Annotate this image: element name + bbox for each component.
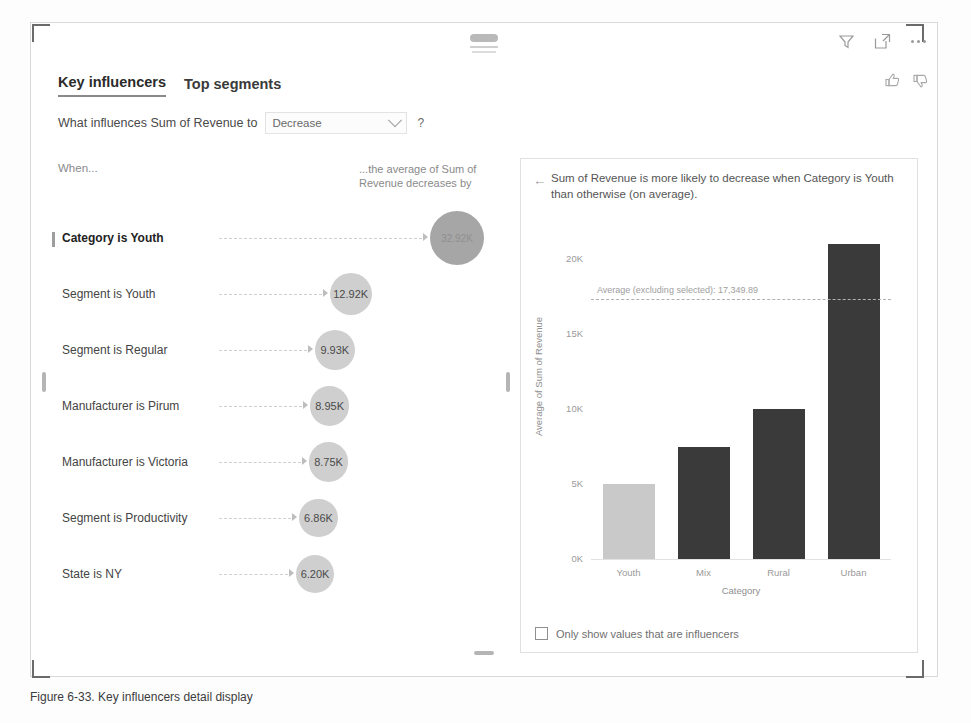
crop-mark-top-left <box>32 24 50 42</box>
filter-icon[interactable] <box>835 30 857 52</box>
chart-bar[interactable] <box>753 409 805 559</box>
influencer-bubble[interactable]: 8.75K <box>309 442 349 482</box>
influencer-label: Manufacturer is Pirum <box>62 399 179 413</box>
visual-tabs: Key influencers Top segments <box>58 74 281 97</box>
tab-top-segments[interactable]: Top segments <box>184 76 281 97</box>
y-axis-tick-label: 0K <box>549 553 583 564</box>
when-column-header: When... <box>58 162 98 174</box>
influencer-bubble[interactable]: 8.95K <box>310 386 350 426</box>
connector-line <box>219 406 302 408</box>
connector-line <box>219 238 422 240</box>
influencer-row[interactable]: Segment is Productivity6.86K <box>44 500 504 556</box>
y-axis-tick-label: 15K <box>549 328 583 339</box>
influencer-label: Segment is Regular <box>62 343 167 357</box>
metric-direction-select[interactable]: Decrease <box>265 112 407 134</box>
back-arrow-icon[interactable]: ← <box>533 173 546 188</box>
influencers-list-panel: When... ...the average of Sum of Revenue… <box>44 158 504 653</box>
crop-mark-bottom-right <box>906 660 924 678</box>
influencer-row[interactable]: Manufacturer is Pirum8.95K <box>44 388 504 444</box>
only-influencers-checkbox-row[interactable]: Only show values that are influencers <box>535 627 739 640</box>
connector-arrow-icon <box>289 569 294 577</box>
visual-drag-line-lower <box>472 51 496 53</box>
x-axis-tick-label: Urban <box>819 567 889 578</box>
connector-arrow-icon <box>423 233 428 241</box>
tab-key-influencers[interactable]: Key influencers <box>58 74 166 97</box>
detail-bar-chart: Average of Sum of Revenue 0K5K10K15K20K … <box>521 221 917 619</box>
influencer-row[interactable]: Category is Youth32.92K <box>44 220 504 276</box>
crop-mark-bottom-left <box>32 660 50 678</box>
effect-column-header: ...the average of Sum of Revenue decreas… <box>359 162 499 190</box>
influencer-detail-panel: ← Sum of Revenue is more likely to decre… <box>520 158 918 653</box>
y-axis-tick-label: 5K <box>549 478 583 489</box>
connector-line <box>219 350 307 352</box>
connector-arrow-icon <box>292 513 297 521</box>
y-axis-tick-label: 10K <box>549 403 583 414</box>
y-axis-title: Average of Sum of Revenue <box>533 282 544 472</box>
thumbs-up-icon[interactable] <box>884 72 901 89</box>
only-influencers-checkbox[interactable] <box>535 627 548 640</box>
question-label: What influences Sum of Revenue to <box>58 116 257 130</box>
connector-line <box>219 294 322 296</box>
influencer-row[interactable]: Segment is Youth12.92K <box>44 276 504 332</box>
visual-drag-line-upper <box>470 46 498 48</box>
resize-handle-bottom[interactable] <box>474 651 494 655</box>
connector-arrow-icon <box>302 457 307 465</box>
influencer-label: Segment is Productivity <box>62 511 187 525</box>
chart-plot-area <box>591 229 891 560</box>
resize-handle-left-middle[interactable] <box>42 372 46 392</box>
x-axis-tick-label: Rural <box>744 567 814 578</box>
question-row: What influences Sum of Revenue to Decrea… <box>58 112 424 134</box>
connector-line <box>219 518 291 520</box>
connector-arrow-icon <box>308 345 313 353</box>
y-axis-tick-label: 20K <box>549 253 583 264</box>
influencer-bubble[interactable]: 6.20K <box>296 555 334 593</box>
focus-mode-icon[interactable] <box>871 30 893 52</box>
x-axis-tick-label: Youth <box>594 567 664 578</box>
influencer-row[interactable]: State is NY6.20K <box>44 556 504 612</box>
chevron-down-icon <box>388 113 402 127</box>
connector-arrow-icon <box>323 289 328 297</box>
page-background: Key influencers Top segments What influe… <box>0 0 971 723</box>
chart-bar[interactable] <box>828 244 880 559</box>
influencer-bubble[interactable]: 6.86K <box>299 499 337 537</box>
influencer-label: Segment is Youth <box>62 287 155 301</box>
influencer-row[interactable]: Segment is Regular9.93K <box>44 332 504 388</box>
selected-indicator <box>52 232 55 247</box>
visual-toolbar <box>835 30 929 52</box>
influencer-label: State is NY <box>62 567 122 581</box>
more-options-icon[interactable] <box>907 30 929 52</box>
help-icon[interactable]: ? <box>415 116 424 130</box>
x-axis-tick-label: Mix <box>669 567 739 578</box>
average-reference-line <box>591 299 891 300</box>
influencer-bubble[interactable]: 32.92K <box>430 211 484 265</box>
average-reference-label: Average (excluding selected): 17,349.89 <box>597 285 758 295</box>
influencer-label: Manufacturer is Victoria <box>62 455 188 469</box>
chart-bar[interactable] <box>603 484 655 559</box>
connector-line <box>219 574 288 576</box>
connector-arrow-icon <box>303 401 308 409</box>
feedback-controls <box>884 72 929 89</box>
only-influencers-label: Only show values that are influencers <box>556 628 739 640</box>
influencer-bubble[interactable]: 12.92K <box>330 273 372 315</box>
figure-caption: Figure 6-33. Key influencers detail disp… <box>30 690 253 704</box>
visual-drag-handle[interactable] <box>470 34 498 42</box>
thumbs-down-icon[interactable] <box>912 72 929 89</box>
influencer-label: Category is Youth <box>62 231 164 245</box>
chart-bar[interactable] <box>678 447 730 560</box>
influencer-row[interactable]: Manufacturer is Victoria8.75K <box>44 444 504 500</box>
influencer-bubble[interactable]: 9.93K <box>315 330 355 370</box>
x-axis-title: Category <box>591 585 891 596</box>
connector-line <box>219 462 301 464</box>
resize-handle-panel-divider[interactable] <box>506 372 510 392</box>
metric-direction-value: Decrease <box>272 117 321 129</box>
detail-description: Sum of Revenue is more likely to decreas… <box>551 170 896 202</box>
